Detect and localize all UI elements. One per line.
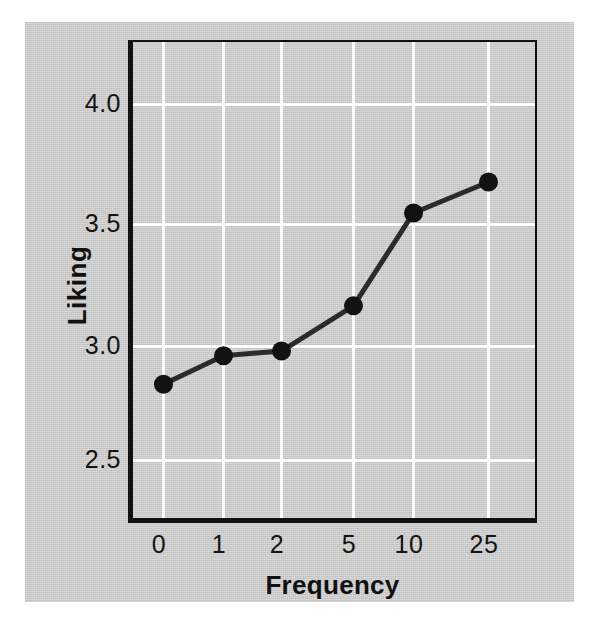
data-point-marker bbox=[272, 342, 291, 361]
x-tick-label: 10 bbox=[395, 532, 424, 557]
y-tick-label: 4.0 bbox=[85, 91, 121, 116]
x-tick-label: 5 bbox=[342, 532, 356, 557]
data-point-marker bbox=[214, 346, 233, 365]
x-axis-tick-labels: 0 1 2 5 10 25 bbox=[128, 532, 537, 572]
x-tick-label: 25 bbox=[470, 532, 499, 557]
plot-inner bbox=[133, 42, 535, 518]
series-polyline bbox=[164, 182, 489, 384]
y-axis-title: Liking bbox=[62, 226, 93, 346]
data-point-marker bbox=[154, 375, 173, 394]
x-tick-label: 2 bbox=[270, 532, 284, 557]
data-series-line bbox=[133, 42, 542, 525]
series-markers bbox=[154, 173, 498, 394]
y-tick-label: 2.5 bbox=[85, 447, 121, 472]
x-axis-title: Frequency bbox=[128, 570, 537, 601]
data-point-marker bbox=[344, 296, 363, 315]
data-point-marker bbox=[404, 203, 423, 222]
x-tick-label: 0 bbox=[152, 532, 166, 557]
chart-figure: 4.0 3.5 3.0 2.5 Liking bbox=[25, 22, 574, 602]
data-point-marker bbox=[479, 173, 498, 192]
x-tick-label: 1 bbox=[212, 532, 226, 557]
plot-area bbox=[128, 40, 537, 523]
